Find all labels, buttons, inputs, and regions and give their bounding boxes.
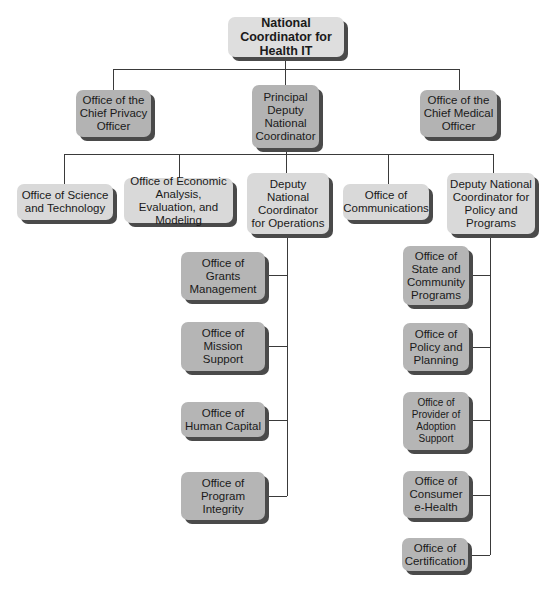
node-label: Office of Communications — [343, 189, 429, 215]
connector-policy-vertical — [490, 234, 491, 555]
connector-level1-horizontal — [113, 69, 459, 70]
node-mission-support: Office of Mission Support — [181, 322, 265, 371]
connector-to-principal-deputy — [285, 69, 286, 85]
node-label: Deputy National Coordinator for Operatio… — [250, 178, 326, 230]
connector-to-science — [64, 154, 65, 184]
node-label: Office of State and Community Programs — [406, 250, 466, 302]
node-deputy-policy-programs: Deputy National Coordinator for Policy a… — [447, 173, 535, 234]
connector-to-deputy-policy — [493, 154, 494, 173]
node-label: Office of Policy and Planning — [406, 328, 466, 367]
node-label: Principal Deputy National Coordinator — [255, 91, 316, 143]
node-principal-deputy: Principal Deputy National Coordinator — [252, 85, 319, 148]
connector-to-chief-medical — [459, 69, 460, 90]
node-provider-adoption-support: Office of Provider of Adoption Support — [403, 392, 469, 450]
node-label: Office of the Chief Medical Officer — [423, 94, 494, 133]
node-label: Office of Program Integrity — [184, 477, 262, 516]
connector-to-program-integrity — [265, 496, 287, 497]
connector-to-consumer-ehealth — [468, 495, 490, 496]
connector-to-deputy-ops — [286, 154, 287, 173]
node-certification: Office of Certification — [402, 538, 468, 571]
node-grants-management: Office of Grants Management — [181, 252, 265, 300]
node-label: Office of Provider of Adoption Support — [406, 397, 466, 445]
node-chief-medical-officer: Office of the Chief Medical Officer — [420, 90, 497, 137]
node-label: Deputy National Coordinator for Policy a… — [450, 178, 532, 230]
node-label: Office of Consumer e-Health — [406, 475, 466, 514]
connector-root-down — [285, 57, 286, 69]
node-consumer-ehealth: Office of Consumer e-Health — [403, 471, 469, 518]
connector-to-mission — [265, 346, 287, 347]
node-label: Office of Certification — [405, 542, 466, 568]
connector-ops-vertical — [287, 234, 288, 496]
node-program-integrity: Office of Program Integrity — [181, 472, 265, 520]
node-national-coordinator: National Coordinator for Health IT — [228, 17, 344, 57]
node-label: National Coordinator for Health IT — [231, 16, 341, 58]
connector-to-state-community — [468, 275, 490, 276]
connector-to-provider-adoption — [468, 420, 490, 421]
node-label: Office of the Chief Privacy Officer — [79, 94, 148, 133]
node-label: Office of Mission Support — [184, 327, 262, 366]
node-policy-planning: Office of Policy and Planning — [403, 323, 469, 371]
node-chief-privacy-officer: Office of the Chief Privacy Officer — [76, 90, 151, 137]
connector-to-grants — [265, 275, 287, 276]
node-science-technology: Office of Science and Technology — [17, 184, 113, 220]
connector-to-policy-planning — [468, 347, 490, 348]
connector-level2-horizontal — [64, 154, 494, 155]
node-label: Office of Human Capital — [184, 407, 262, 433]
node-label: Office of Science and Technology — [20, 189, 110, 215]
connector-to-chief-privacy — [113, 69, 114, 90]
connector-to-communications — [388, 154, 389, 184]
node-label: Office of Grants Management — [184, 257, 262, 296]
node-communications: Office of Communications — [343, 184, 429, 220]
node-state-community-programs: Office of State and Community Programs — [403, 246, 469, 305]
connector-to-certification — [468, 555, 490, 556]
node-economic-analysis: Office of Economic Analysis, Evaluation,… — [124, 178, 233, 223]
node-human-capital: Office of Human Capital — [181, 402, 265, 437]
connector-to-human-capital — [265, 420, 287, 421]
node-label: Office of Economic Analysis, Evaluation,… — [127, 175, 230, 227]
node-deputy-operations: Deputy National Coordinator for Operatio… — [247, 173, 329, 234]
